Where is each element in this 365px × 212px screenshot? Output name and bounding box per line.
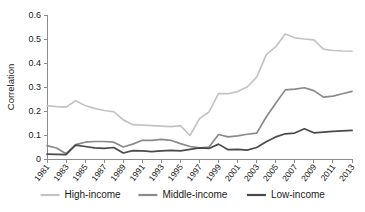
x-axis-tick-label: 1985 <box>70 162 90 183</box>
y-axis-tick-label: 0.1 <box>28 130 41 140</box>
legend-label-low-income: Low-income <box>271 189 325 200</box>
y-axis-tick-label: 0 <box>36 154 41 164</box>
series-line-high-income <box>47 34 352 136</box>
y-axis-tick-label: 0.3 <box>28 82 41 92</box>
x-axis-tick-label: 1995 <box>165 162 185 183</box>
y-axis: 00.10.20.30.40.50.6 <box>28 10 47 164</box>
y-axis-tick-label: 0.5 <box>28 34 41 44</box>
legend-label-high-income: High-income <box>65 189 122 200</box>
x-axis-tick-label: 2001 <box>223 162 243 183</box>
x-axis-tick-label: 1983 <box>51 162 71 183</box>
x-axis-tick-label: 2013 <box>337 162 357 183</box>
x-axis-tick-label: 2005 <box>261 162 281 183</box>
y-axis-title-label: Correlation <box>5 64 16 110</box>
x-axis-tick-label: 2007 <box>280 162 300 183</box>
y-axis-tick-label: 0.6 <box>28 10 41 20</box>
x-axis-tick-label: 2003 <box>242 162 262 183</box>
x-axis: 1981198319851987198919911993199519971999… <box>32 159 357 183</box>
series-line-middle-income <box>47 88 352 154</box>
x-axis-tick-label: 1991 <box>127 162 147 183</box>
y-axis-title: Correlation <box>5 64 16 110</box>
correlation-line-chart: 00.10.20.30.40.50.6 19811983198519871989… <box>0 0 365 212</box>
x-axis-tick-label: 1989 <box>108 162 128 183</box>
chart-canvas: 00.10.20.30.40.50.6 19811983198519871989… <box>0 0 365 212</box>
chart-legend: High-incomeMiddle-incomeLow-income <box>41 189 326 200</box>
x-axis-tick-label: 1993 <box>146 162 166 183</box>
x-axis-tick-label: 2009 <box>299 162 319 183</box>
x-axis-tick-label: 1987 <box>89 162 109 183</box>
legend-label-middle-income: Middle-income <box>162 189 227 200</box>
y-axis-tick-label: 0.4 <box>28 58 41 68</box>
series-lines <box>47 34 352 155</box>
x-axis-tick-label: 2011 <box>318 162 337 183</box>
x-axis-tick-label: 1997 <box>185 162 205 183</box>
x-axis-tick-label: 1999 <box>204 162 224 183</box>
y-axis-tick-label: 0.2 <box>28 106 41 116</box>
x-axis-tick-label: 1981 <box>32 162 52 183</box>
